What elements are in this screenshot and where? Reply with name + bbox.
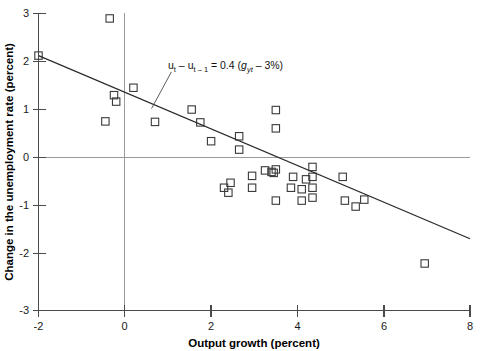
data-point-marker — [272, 106, 279, 113]
data-point-markers — [35, 15, 429, 267]
data-point-marker — [361, 196, 368, 203]
x-tick-label-2: 2 — [208, 320, 214, 332]
data-point-marker — [248, 172, 255, 179]
data-point-marker — [298, 186, 305, 193]
data-point-marker — [235, 146, 242, 153]
y-tick-label-3: 3 — [23, 7, 29, 19]
data-point-marker — [339, 173, 346, 180]
axes — [38, 13, 470, 311]
x-axis-title: Output growth (percent) — [188, 337, 320, 349]
x-tick-label-0: 0 — [121, 320, 127, 332]
data-point-marker — [151, 118, 158, 125]
y-tick-label-0: 0 — [23, 151, 29, 163]
regression-equation-annotation: ut – ut – 1 = 0.4 (gyt – 3%) — [168, 59, 283, 74]
chart-svg: 3 2 1 0 -1 -2 -3 -2 0 2 4 6 8 — [0, 0, 485, 351]
y-tick-label-neg2: -2 — [19, 247, 29, 259]
data-point-marker — [309, 184, 316, 191]
leader-line-segment — [152, 72, 172, 109]
data-point-marker — [248, 184, 255, 191]
data-point-marker — [130, 84, 137, 91]
regression-fit-line — [39, 56, 471, 239]
data-point-marker — [309, 163, 316, 170]
okun-law-scatter-chart: 3 2 1 0 -1 -2 -3 -2 0 2 4 6 8 — [0, 0, 485, 351]
fit-line-segment — [39, 56, 471, 239]
data-point-marker — [272, 197, 279, 204]
data-point-marker — [225, 189, 232, 196]
data-point-marker — [207, 138, 214, 145]
y-tick-label-2: 2 — [23, 55, 29, 67]
data-point-marker — [188, 106, 195, 113]
data-point-marker — [102, 118, 109, 125]
x-tick-label-6: 6 — [381, 320, 387, 332]
data-point-marker — [421, 260, 428, 267]
x-tick-label-8: 8 — [467, 320, 473, 332]
y-tick-label-neg1: -1 — [19, 199, 29, 211]
y-axis-title: Change in the unemployment rate (percent… — [3, 43, 15, 281]
data-point-marker — [272, 125, 279, 132]
y-tick-label-1: 1 — [23, 103, 29, 115]
data-point-marker — [287, 184, 294, 191]
data-point-marker — [235, 133, 242, 140]
x-axis-ticks: -2 0 2 4 6 8 — [34, 305, 473, 332]
data-point-marker — [298, 197, 305, 204]
data-point-marker — [352, 203, 359, 210]
data-point-marker — [106, 15, 113, 22]
annotation-leader-line — [152, 72, 172, 109]
data-point-marker — [309, 194, 316, 201]
data-point-marker — [289, 173, 296, 180]
x-tick-label-neg2: -2 — [34, 320, 44, 332]
x-tick-label-4: 4 — [294, 320, 300, 332]
y-tick-label-neg3: -3 — [19, 304, 29, 316]
data-point-marker — [341, 197, 348, 204]
reference-lines — [38, 13, 470, 310]
